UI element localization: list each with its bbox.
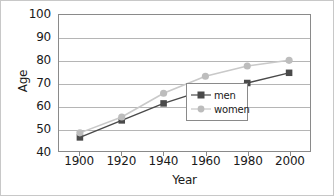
- y-tick-label: 100: [11, 8, 51, 20]
- series-line-men: [80, 73, 289, 138]
- series-layer: [59, 15, 310, 151]
- legend-swatch-men: [190, 89, 212, 101]
- x-tick-label: 2000: [265, 155, 315, 167]
- data-point-women: [202, 73, 209, 80]
- y-tick-label: 70: [11, 77, 51, 89]
- legend-label-women: women: [214, 104, 250, 115]
- y-tick-label: 40: [11, 146, 51, 158]
- x-tick-mark: [79, 152, 80, 156]
- legend-entry-women: women: [190, 102, 243, 116]
- y-tick-label: 50: [11, 123, 51, 135]
- data-point-men: [160, 100, 167, 107]
- x-axis-label: Year: [58, 173, 311, 187]
- legend-entry-men: men: [190, 88, 243, 102]
- data-point-women: [160, 90, 167, 97]
- data-point-women: [76, 129, 83, 136]
- y-tick-label: 60: [11, 100, 51, 112]
- legend-swatch-women: [190, 103, 212, 115]
- legend-label-men: men: [214, 90, 236, 101]
- y-tick-label: 90: [11, 31, 51, 43]
- y-tick-label: 80: [11, 54, 51, 66]
- data-point-women: [286, 57, 293, 64]
- x-tick-mark: [163, 152, 164, 156]
- plot-area: [58, 14, 311, 152]
- data-point-women: [118, 113, 125, 120]
- data-point-men: [286, 70, 293, 77]
- x-tick-mark: [248, 152, 249, 156]
- data-point-women: [244, 62, 251, 69]
- x-tick-mark: [121, 152, 122, 156]
- x-tick-mark: [290, 152, 291, 156]
- x-tick-mark: [206, 152, 207, 156]
- chart-figure: Age 405060708090100 19001920194019601980…: [0, 0, 334, 196]
- chart-legend: men women: [186, 83, 248, 121]
